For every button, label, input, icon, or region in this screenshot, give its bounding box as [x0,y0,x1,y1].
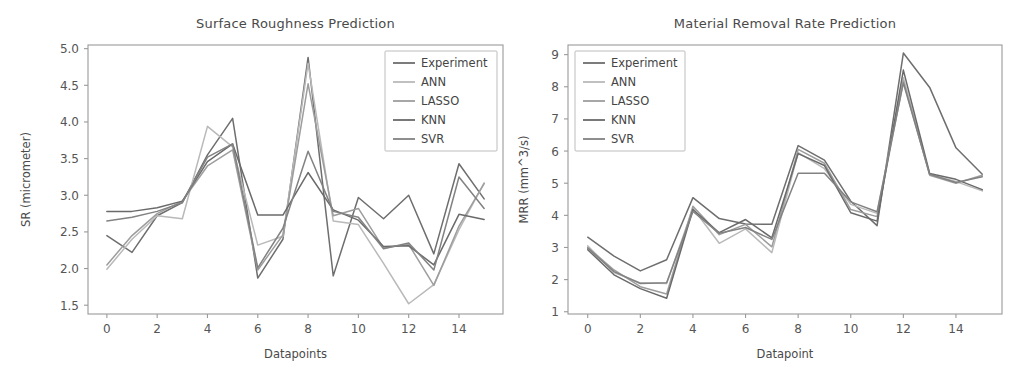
legend-label-ann: ANN [421,75,446,89]
y-tick-label: 4.0 [60,115,79,129]
x-tick-label: 6 [254,322,262,336]
x-tick-label: 8 [304,322,312,336]
legend-label-lasso: LASSO [421,94,459,108]
y-tick-label: 1.5 [60,299,79,313]
chart-title: Surface Roughness Prediction [196,16,395,31]
chart-title: Material Removal Rate Prediction [674,16,896,31]
y-axis-label: SR (micrometer) [19,132,33,227]
x-tick-label: 12 [896,322,911,336]
y-tick-label: 1 [551,305,559,319]
chart-svg-material-removal-rate: Material Removal Rate Prediction12345678… [508,0,1016,373]
y-tick-label: 8 [551,80,559,94]
x-tick-label: 14 [451,322,466,336]
x-axis-label: Datapoint [757,347,814,361]
y-tick-label: 3.5 [60,152,79,166]
y-tick-label: 5.0 [60,42,79,56]
chart-panel-surface-roughness: Surface Roughness Prediction1.52.02.53.0… [0,0,508,373]
x-tick-label: 8 [794,322,802,336]
y-tick-label: 4 [551,209,559,223]
y-tick-label: 6 [551,145,559,159]
legend-label-experiment: Experiment [421,56,488,70]
y-tick-label: 2.0 [60,262,79,276]
y-tick-label: 9 [551,48,559,62]
y-tick-label: 5 [551,177,559,191]
x-axis-label: Datapoints [264,347,327,361]
x-tick-label: 2 [153,322,161,336]
legend-label-knn: KNN [421,113,446,127]
chart-legend[interactable]: ExperimentANNLASSOKNNSVR [385,51,497,151]
legend-label-svr: SVR [611,132,634,146]
x-tick-label: 4 [689,322,697,336]
x-tick-label: 0 [584,322,592,336]
x-tick-label: 4 [204,322,212,336]
x-tick-label: 14 [948,322,963,336]
x-tick-label: 10 [351,322,366,336]
y-tick-label: 4.5 [60,79,79,93]
y-tick-label: 2.5 [60,225,79,239]
chart-svg-surface-roughness: Surface Roughness Prediction1.52.02.53.0… [0,0,508,373]
legend-label-ann: ANN [611,75,636,89]
x-tick-label: 10 [843,322,858,336]
y-tick-label: 2 [551,273,559,287]
y-axis-label: MRR (mm^3/s) [517,136,531,224]
legend-label-svr: SVR [421,132,444,146]
x-tick-label: 12 [401,322,416,336]
legend-label-experiment: Experiment [611,56,678,70]
chart-panel-material-removal-rate: Material Removal Rate Prediction12345678… [508,0,1016,373]
chart-legend[interactable]: ExperimentANNLASSOKNNSVR [575,51,685,151]
legend-label-lasso: LASSO [611,94,649,108]
x-tick-label: 0 [103,322,111,336]
figure-canvas: Surface Roughness Prediction1.52.02.53.0… [0,0,1016,373]
y-tick-label: 3 [551,241,559,255]
legend-label-knn: KNN [611,113,636,127]
y-tick-label: 7 [551,112,559,126]
x-tick-label: 2 [637,322,645,336]
y-tick-label: 3.0 [60,189,79,203]
x-tick-label: 6 [742,322,750,336]
